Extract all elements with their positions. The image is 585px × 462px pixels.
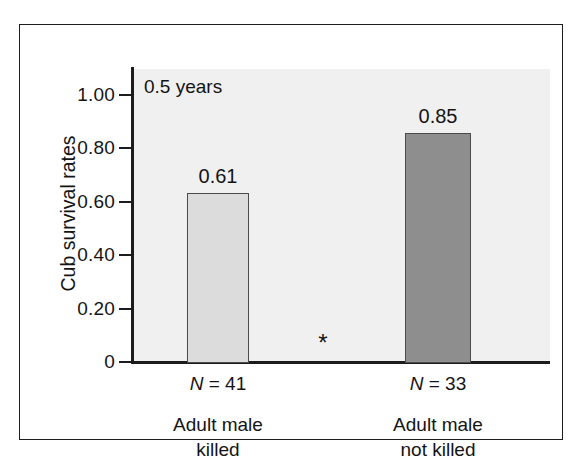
y-tick-mark-0	[119, 361, 131, 363]
y-tick-label-0: 0	[23, 352, 115, 371]
y-axis-line	[131, 67, 134, 364]
y-tick-mark-1.00	[119, 94, 131, 96]
y-axis-title: Cub survival rates	[57, 104, 80, 324]
sample-size-symbol: N	[190, 373, 204, 394]
sample-size-label-adult-male-not-killed: N = 33	[343, 373, 533, 396]
x-category-group-adult-male-not-killed: N = 33 Adult male not killed	[343, 373, 533, 462]
x-category-label-line-2: not killed	[343, 437, 533, 462]
x-category-label-adult-male-not-killed: Adult male not killed	[343, 412, 533, 462]
bar-value-label-adult-male-killed: 0.61	[177, 165, 259, 188]
y-tick-mark-0.80	[119, 147, 131, 149]
x-category-group-adult-male-killed: N = 41 Adult male killed	[123, 373, 313, 462]
x-category-label-adult-male-killed: Adult male killed	[123, 412, 313, 462]
y-tick-mark-0.20	[119, 308, 131, 310]
bar-adult-male-not-killed	[405, 133, 471, 363]
y-tick-mark-0.60	[119, 201, 131, 203]
plot-annotation-time-period: 0.5 years	[144, 76, 222, 98]
x-category-label-line-1: Adult male	[123, 412, 313, 437]
bar-adult-male-killed	[187, 193, 249, 363]
bar-value-label-adult-male-not-killed: 0.85	[397, 105, 479, 128]
x-category-label-line-1: Adult male	[343, 412, 533, 437]
figure-container: 1.00 0.80 0.60 0.40 0.20 0 Cub survival …	[0, 0, 585, 462]
y-tick-label-1.00: 1.00	[23, 85, 115, 104]
sample-size-symbol: N	[410, 373, 424, 394]
figure-frame: 1.00 0.80 0.60 0.40 0.20 0 Cub survival …	[19, 24, 563, 440]
significance-asterisk-marker: *	[309, 331, 337, 355]
y-tick-mark-0.40	[119, 254, 131, 256]
sample-size-value: = 33	[423, 373, 466, 394]
sample-size-label-adult-male-killed: N = 41	[123, 373, 313, 396]
x-category-label-line-2: killed	[123, 437, 313, 462]
sample-size-value: = 41	[203, 373, 246, 394]
